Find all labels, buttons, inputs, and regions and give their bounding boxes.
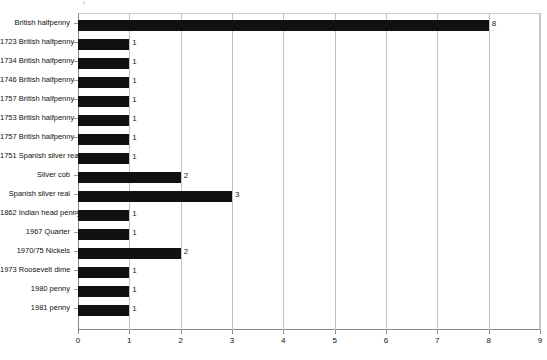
bar-value-label: 2: [184, 246, 188, 257]
value-tick-label: 1: [127, 336, 131, 346]
bar-row: 1: [78, 226, 540, 245]
bar-row: 1: [78, 93, 540, 112]
bar-row: 1: [78, 36, 540, 55]
bar: [78, 39, 129, 50]
value-tick: [78, 330, 79, 334]
bar-value-label: 8: [492, 18, 496, 29]
category-label: 1753 British halfpenny: [0, 113, 74, 123]
bar-chart: 4 British halfpenny1723 British halfpenn…: [0, 0, 547, 360]
bar-row: 1: [78, 302, 540, 321]
bar: [78, 77, 129, 88]
bar: [78, 172, 181, 183]
bar: [78, 305, 129, 316]
bar-value-label: 1: [132, 94, 136, 105]
bar-value-label: 1: [132, 265, 136, 276]
value-tick-label: 7: [435, 336, 439, 346]
bar-row: 1: [78, 112, 540, 131]
value-tick: [232, 330, 233, 334]
bar-value-label: 1: [132, 75, 136, 86]
category-label: 1970/75 Nickels: [0, 246, 74, 256]
bar-value-label: 2: [184, 170, 188, 181]
value-tick: [489, 330, 490, 334]
bar-row: 1: [78, 55, 540, 74]
bar: [78, 191, 232, 202]
value-tick: [540, 330, 541, 334]
bar: [78, 248, 181, 259]
top-scan-artifact: 4: [82, 0, 85, 7]
category-label: 1746 British halfpenny: [0, 75, 74, 85]
category-label: 1967 Quarter: [0, 227, 74, 237]
category-label: British halfpenny: [0, 18, 74, 28]
value-tick: [335, 330, 336, 334]
bar-row: 1: [78, 74, 540, 93]
value-tick-label: 4: [281, 336, 285, 346]
bar-value-label: 3: [235, 189, 239, 200]
bar-row: 1: [78, 283, 540, 302]
bar: [78, 134, 129, 145]
value-tick-label: 5: [332, 336, 336, 346]
bar-value-label: 1: [132, 37, 136, 48]
value-tick: [181, 330, 182, 334]
bar-row: 1: [78, 150, 540, 169]
category-label: 1751 Spanish silver real: [0, 151, 74, 161]
bar: [78, 210, 129, 221]
bar-row: 2: [78, 245, 540, 264]
bar: [78, 286, 129, 297]
bar: [78, 267, 129, 278]
bar: [78, 229, 129, 240]
bar-value-label: 1: [132, 56, 136, 67]
bar-row: 1: [78, 264, 540, 283]
bar-value-label: 1: [132, 284, 136, 295]
category-axis-labels: British halfpenny1723 British halfpenny1…: [0, 13, 74, 330]
bar-value-label: 1: [132, 113, 136, 124]
value-tick-label: 0: [76, 336, 80, 346]
bar-value-label: 1: [132, 208, 136, 219]
bar-value-label: 1: [132, 151, 136, 162]
bar: [78, 115, 129, 126]
value-tick-label: 6: [384, 336, 388, 346]
bar: [78, 20, 489, 31]
bar: [78, 58, 129, 69]
bar: [78, 153, 129, 164]
gridline: [540, 13, 541, 330]
bar-value-label: 1: [132, 303, 136, 314]
value-tick-label: 8: [486, 336, 490, 346]
category-label: Silver cob: [0, 170, 74, 180]
category-label: 1757 British halfpenny: [0, 132, 74, 142]
bar-row: 1: [78, 207, 540, 226]
bar-value-label: 1: [132, 227, 136, 238]
category-label: 1973 Roosevelt dime: [0, 265, 74, 275]
bar-row: 2: [78, 169, 540, 188]
value-tick-label: 3: [230, 336, 234, 346]
bar-row: 1: [78, 131, 540, 150]
category-label: 1734 British halfpenny: [0, 56, 74, 66]
category-label: Spanish silver real: [0, 189, 74, 199]
value-tick: [437, 330, 438, 334]
category-label: 1757 British halfpenny: [0, 94, 74, 104]
value-tick: [129, 330, 130, 334]
bar-row: 3: [78, 188, 540, 207]
value-tick: [283, 330, 284, 334]
value-axis: 0123456789: [0, 330, 547, 360]
value-tick-label: 2: [178, 336, 182, 346]
category-label: 1862 Indian head penny: [0, 208, 74, 218]
bar: [78, 96, 129, 107]
category-label: 1723 British halfpenny: [0, 37, 74, 47]
value-tick-label: 9: [538, 336, 542, 346]
bar-value-label: 1: [132, 132, 136, 143]
category-label: 1980 penny: [0, 284, 74, 294]
value-tick: [386, 330, 387, 334]
bars-layer: 8111111123112111: [78, 13, 540, 330]
category-label: 1981 penny: [0, 303, 74, 313]
bar-row: 8: [78, 17, 540, 36]
